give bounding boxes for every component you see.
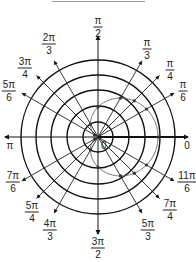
plot-point — [145, 107, 148, 110]
angle-label-pi6: π6 — [179, 80, 188, 103]
denominator: 2 — [94, 28, 103, 39]
angle-label-5pi4: 5π4 — [25, 201, 39, 224]
plot-point — [89, 148, 92, 151]
numerator: 5π — [25, 201, 39, 213]
ray-120 — [54, 61, 98, 137]
plot-point — [133, 172, 136, 175]
denominator: 4 — [163, 211, 177, 222]
denominator: 3 — [43, 231, 57, 242]
numerator: 3π — [18, 57, 32, 69]
angle-label-3pi2: 3π2 — [91, 237, 105, 260]
denominator: 2 — [91, 249, 105, 260]
angle-label-pi2: π2 — [94, 16, 103, 39]
plot-point — [93, 137, 96, 140]
arrowhead-icon — [184, 135, 189, 140]
angle-label-4pi3: 4π3 — [43, 219, 57, 242]
angle-label-pi: π — [7, 141, 14, 151]
numerator: π — [143, 38, 152, 50]
plot-point — [96, 105, 99, 108]
numerator: 5π — [2, 80, 16, 92]
numerator: 3π — [91, 237, 105, 249]
numerator: 5π — [141, 219, 155, 231]
ray-135 — [36, 75, 98, 137]
arrowhead-icon — [96, 230, 101, 235]
angle-label-11pi6: 11π6 — [177, 171, 196, 194]
numerator: 11π — [177, 171, 196, 183]
angle-label-7pi4: 7π4 — [163, 199, 177, 222]
denominator: 6 — [179, 92, 188, 103]
plot-point — [133, 99, 136, 102]
angle-label-3pi4: 3π4 — [18, 57, 32, 80]
numerator: 4π — [43, 219, 57, 231]
numerator: π — [94, 16, 103, 28]
plot-point — [156, 135, 159, 138]
denominator: 3 — [143, 50, 152, 61]
plot-point — [89, 122, 92, 125]
plot-point — [93, 133, 96, 136]
numerator: π — [179, 80, 188, 92]
angle-label-7pi6: 7π6 — [6, 171, 20, 194]
denominator: 6 — [2, 92, 16, 103]
numerator: 7π — [6, 171, 20, 183]
angle-label-5pi6: 5π6 — [2, 80, 16, 103]
ray-315 — [98, 137, 160, 199]
origin-label: 0 — [101, 140, 107, 151]
ray-45 — [98, 75, 160, 137]
angle-label-2pi3: 2π3 — [42, 33, 56, 56]
plot-point — [119, 96, 122, 99]
numerator: 2π — [42, 33, 56, 45]
plot-point — [96, 165, 99, 168]
plot-point — [119, 174, 122, 177]
ray-225 — [36, 137, 98, 199]
angle-label-0: 0 — [184, 141, 190, 151]
angle-label-pi4: π4 — [166, 59, 175, 82]
ray-240 — [54, 137, 98, 213]
denominator: 4 — [166, 71, 175, 82]
arrowhead-icon — [4, 135, 9, 140]
denominator: 6 — [177, 183, 196, 194]
denominator: 4 — [25, 213, 39, 224]
angle-label-5pi3: 5π3 — [141, 219, 155, 242]
ray-210 — [22, 137, 98, 181]
angle-label-pi3: π3 — [143, 38, 152, 61]
ray-150 — [22, 93, 98, 137]
numerator: 7π — [163, 199, 177, 211]
denominator: 6 — [6, 183, 20, 194]
plot-point — [145, 163, 148, 166]
denominator: 4 — [18, 69, 32, 80]
denominator: 3 — [141, 231, 155, 242]
denominator: 3 — [42, 45, 56, 56]
numerator: π — [166, 59, 175, 71]
